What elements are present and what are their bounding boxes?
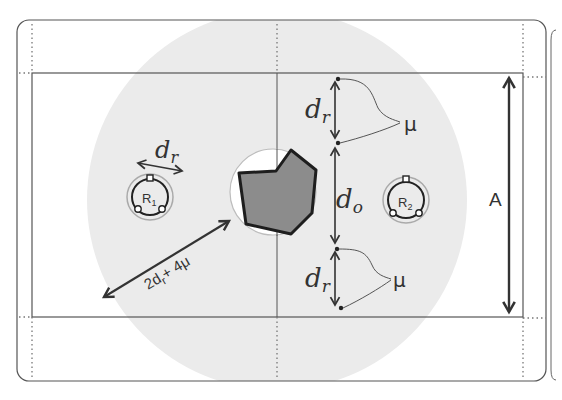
bottom-mu-label: μ [393, 268, 406, 292]
top-mu-label: μ [404, 112, 417, 136]
side-length-dimension: A [489, 78, 509, 312]
adjacent-frame-edge [551, 30, 556, 380]
side-length-label: A [489, 189, 502, 210]
diagram-canvas: R1 dr R2 2dr+ 4μ dr μ do dr μ [0, 0, 562, 400]
